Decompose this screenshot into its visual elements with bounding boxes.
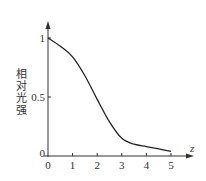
chart: 012345 00.51 z bbox=[0, 0, 206, 181]
intensity-curve bbox=[48, 38, 171, 151]
y-axis-arrow-icon bbox=[46, 21, 51, 29]
x-tick-label: 5 bbox=[168, 159, 174, 171]
y-tick-label: 0 bbox=[40, 147, 46, 159]
y-tick-label: 1 bbox=[40, 32, 46, 44]
x-tick-label: 0 bbox=[45, 159, 51, 171]
x-tick-label: 4 bbox=[144, 159, 150, 171]
x-tick-label: 2 bbox=[94, 159, 100, 171]
y-tick-label: 0.5 bbox=[31, 91, 45, 103]
x-tick-label: 3 bbox=[119, 159, 125, 171]
x-tick-label: 1 bbox=[70, 159, 76, 171]
x-axis-label: z bbox=[189, 142, 195, 154]
y-axis-label: 相对光强 bbox=[8, 68, 28, 116]
x-axis-arrow-icon bbox=[186, 154, 194, 159]
